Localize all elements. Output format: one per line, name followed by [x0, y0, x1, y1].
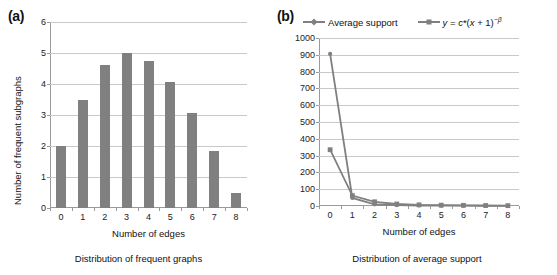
- y-tick-label: 0: [310, 202, 315, 211]
- x-tick-label: 2: [372, 211, 377, 220]
- x-tick-label: 4: [416, 211, 421, 220]
- panel-a-label: (a): [8, 8, 24, 24]
- x-tick-mark: [116, 208, 117, 211]
- bar: [100, 65, 110, 208]
- y-tick-label: 1: [41, 173, 46, 182]
- x-tick-mark: [138, 208, 139, 211]
- gridline: [50, 22, 247, 23]
- y-tick-label: 100: [300, 185, 315, 194]
- y-tick-mark: [47, 177, 50, 178]
- x-tick-label: 3: [124, 213, 129, 222]
- panel-a-frequent-graphs: (a) Number of frequent subgraphs 0123456…: [0, 0, 277, 275]
- square-marker-icon: [439, 203, 444, 208]
- x-tick-mark: [50, 208, 51, 211]
- x-tick-mark: [203, 208, 204, 211]
- legend-label-average-support: Average support: [328, 17, 398, 28]
- x-tick-label: 2: [102, 213, 107, 222]
- x-tick-label: 5: [168, 213, 173, 222]
- x-tick-label: 4: [146, 213, 151, 222]
- x-tick-label: 1: [350, 211, 355, 220]
- x-tick-mark: [386, 206, 387, 209]
- square-marker-icon: [417, 202, 422, 207]
- panel-b-average-support: (b) Average support y = c*(x + 1)−β 0100…: [277, 0, 557, 275]
- x-tick-mark: [247, 208, 248, 211]
- y-tick-label: 6: [41, 18, 46, 27]
- panel-b-x-axis-title: Number of edges: [319, 226, 519, 237]
- y-tick-label: 1000: [295, 34, 315, 43]
- legend-item-fitted-curve[interactable]: y = c*(x + 1)−β: [418, 16, 502, 28]
- x-tick-mark: [159, 208, 160, 211]
- y-tick-label: 200: [300, 168, 315, 177]
- square-marker-icon: [505, 203, 510, 208]
- y-tick-label: 900: [300, 50, 315, 59]
- bar: [122, 53, 132, 208]
- bar: [231, 193, 241, 209]
- figure-container: (a) Number of frequent subgraphs 0123456…: [0, 0, 557, 275]
- y-tick-mark: [47, 22, 50, 23]
- x-tick-mark: [430, 206, 431, 209]
- y-tick-mark: [47, 84, 50, 85]
- x-tick-label: 8: [234, 213, 239, 222]
- square-marker-icon: [483, 203, 488, 208]
- y-tick-label: 400: [300, 134, 315, 143]
- x-tick-mark: [72, 208, 73, 211]
- y-tick-label: 2: [41, 142, 46, 151]
- y-tick-label: 0: [41, 204, 46, 213]
- y-tick-label: 5: [41, 49, 46, 58]
- bar: [165, 82, 175, 208]
- x-tick-label: 7: [212, 213, 217, 222]
- x-tick-label: 3: [394, 211, 399, 220]
- panel-b-series: [319, 38, 519, 206]
- gridline: [50, 53, 247, 54]
- panel-a-plot-area: 0123456 012345678: [50, 22, 247, 208]
- x-tick-mark: [519, 206, 520, 209]
- x-tick-label: 0: [328, 211, 333, 220]
- panel-b-label: (b): [277, 8, 294, 24]
- diamond-marker-icon: [303, 21, 325, 23]
- series-line: [330, 54, 508, 206]
- x-tick-mark: [497, 206, 498, 209]
- x-tick-mark: [452, 206, 453, 209]
- square-marker-icon: [418, 21, 440, 23]
- y-tick-mark: [47, 115, 50, 116]
- bar: [56, 146, 66, 208]
- x-tick-label: 0: [58, 213, 63, 222]
- y-tick-label: 800: [300, 67, 315, 76]
- series-line: [330, 150, 508, 206]
- x-tick-mark: [181, 208, 182, 211]
- x-tick-mark: [225, 208, 226, 211]
- x-tick-label: 8: [505, 211, 510, 220]
- square-marker-icon: [372, 199, 377, 204]
- y-tick-mark: [47, 146, 50, 147]
- panel-b-legend: Average support y = c*(x + 1)−β: [303, 16, 502, 28]
- x-tick-mark: [363, 206, 364, 209]
- bar: [78, 100, 88, 209]
- y-tick-label: 4: [41, 80, 46, 89]
- y-tick-label: 600: [300, 101, 315, 110]
- x-tick-mark: [94, 208, 95, 211]
- panel-a-x-axis-title: Number of edges: [50, 228, 247, 239]
- x-tick-label: 7: [483, 211, 488, 220]
- bar: [144, 61, 154, 208]
- panel-a-y-axis-title: Number of frequent subgraphs: [12, 76, 23, 205]
- x-tick-label: 6: [190, 213, 195, 222]
- x-tick-label: 1: [80, 213, 85, 222]
- x-tick-mark: [319, 206, 320, 209]
- square-marker-icon: [394, 202, 399, 207]
- panel-b-caption: Distribution of average support: [277, 253, 557, 264]
- y-tick-label: 500: [300, 118, 315, 127]
- bar: [187, 113, 197, 208]
- panel-a-caption: Distribution of frequent graphs: [0, 253, 277, 264]
- y-tick-label: 300: [300, 151, 315, 160]
- panel-b-plot-area: 01002003004005006007008009001000 0123456…: [319, 38, 519, 206]
- square-marker-icon: [461, 203, 466, 208]
- y-tick-mark: [47, 53, 50, 54]
- square-marker-icon: [350, 193, 355, 198]
- x-tick-label: 5: [439, 211, 444, 220]
- square-marker-icon: [328, 147, 333, 152]
- legend-item-average-support[interactable]: Average support: [303, 17, 398, 28]
- bar: [209, 151, 219, 208]
- x-tick-mark: [341, 206, 342, 209]
- x-tick-mark: [408, 206, 409, 209]
- y-tick-label: 700: [300, 84, 315, 93]
